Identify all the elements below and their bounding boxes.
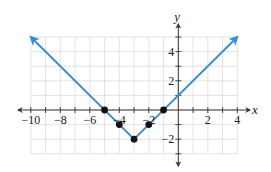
x-tick-label: −2	[142, 113, 155, 127]
x-tick-label: −8	[54, 113, 67, 127]
data-point	[101, 107, 108, 114]
data-point	[160, 107, 167, 114]
y-tick-label: 4	[168, 45, 174, 59]
x-tick-label: −4	[113, 113, 126, 127]
data-point	[131, 136, 138, 143]
x-tick-label: 4	[234, 113, 240, 127]
x-tick-label: 2	[205, 113, 211, 127]
x-tick-label: −6	[83, 113, 96, 127]
absolute-value-graph: −10−8−6−4−22442−2xy	[0, 0, 271, 172]
x-tick-label: −10	[21, 113, 40, 127]
y-axis-label: y	[172, 9, 180, 24]
y-tick-label: 2	[168, 74, 174, 88]
y-tick-label: −2	[162, 132, 175, 146]
x-axis-label: x	[251, 102, 258, 117]
